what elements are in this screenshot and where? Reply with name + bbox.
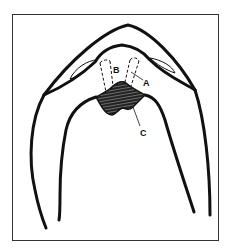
outer-right-arm <box>195 90 210 215</box>
label-c: C <box>140 128 147 138</box>
leader-line-a <box>131 72 143 80</box>
outer-left-arm <box>31 95 46 228</box>
dashed-tube-a <box>125 58 139 86</box>
label-a: A <box>143 78 150 88</box>
hatched-region-c <box>96 82 145 115</box>
anatomical-diagram: A B C <box>0 0 231 250</box>
label-b: B <box>113 65 120 75</box>
inner-left-arm <box>59 97 96 220</box>
leader-line-c <box>133 107 140 126</box>
inner-right-arm <box>145 95 194 212</box>
figure-frame <box>13 15 219 241</box>
